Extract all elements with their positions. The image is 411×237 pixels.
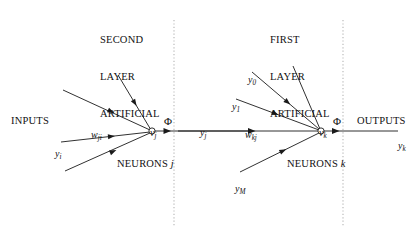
header-first-layer-line1: FIRST [270, 34, 346, 46]
weight-wkj-subscript: kj [252, 133, 257, 141]
signal-label-yk: yk [388, 128, 406, 165]
signal-label-y1: y1 [222, 89, 240, 126]
weight-wji-symbol: w [91, 129, 98, 140]
node-label-vk: vk [309, 115, 327, 152]
weight-wji-subscript: ji [98, 133, 102, 141]
node-label-vj: vj [140, 115, 156, 152]
header-first-layer-line2: LAYER [270, 71, 346, 83]
header-second-layer-line3: ARTIFICIAL [100, 108, 174, 120]
signal-yj-subscript: j [204, 131, 206, 139]
header-second-layer-line1: SECOND [100, 34, 174, 46]
header-first-layer-index: k [341, 158, 346, 169]
signal-y1-subscript: 1 [236, 105, 240, 113]
header-first-layer: FIRST LAYER ARTIFICIAL NEURONS k [270, 9, 346, 207]
header-second-layer-line4-prefix: NEURONS [117, 158, 168, 169]
header-first-layer-line4: NEURONS k [270, 145, 346, 182]
signal-label-y0: y0 [238, 62, 256, 99]
header-second-layer: SECOND LAYER ARTIFICIAL NEURONS j [100, 9, 174, 207]
signal-y0-subscript: 0 [252, 78, 256, 86]
header-second-layer-index: j [171, 158, 174, 169]
header-second-layer-line2: LAYER [100, 71, 174, 83]
signal-label-yM: yM [225, 171, 245, 208]
activation-symbol-left: Φ [164, 115, 172, 128]
header-first-layer-line4-prefix: NEURONS [287, 158, 338, 169]
node-vk-subscript: k [323, 131, 326, 139]
activation-symbol-right: Φ [333, 115, 341, 128]
header-second-layer-line4: NEURONS j [100, 145, 174, 182]
signal-label-yj: yj [190, 115, 206, 152]
signal-yi-subscript: i [59, 152, 61, 160]
weight-label-wji: wji [81, 117, 102, 154]
node-vj-subscript: j [154, 131, 156, 139]
neural-network-diagram: SECOND LAYER ARTIFICIAL NEURONS j FIRST … [0, 0, 411, 237]
signal-label-yi: yi [45, 136, 61, 173]
inputs-label: INPUTS [11, 115, 49, 127]
weight-wkj-symbol: w [245, 129, 252, 140]
signal-yk-subscript: k [402, 144, 405, 152]
outputs-label: OUTPUTS [357, 115, 406, 127]
signal-yM-subscript: M [239, 187, 245, 195]
